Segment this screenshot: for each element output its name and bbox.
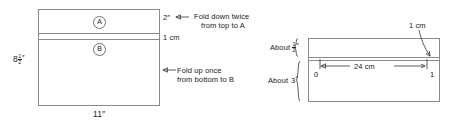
fold-line-bottom: [38, 39, 160, 40]
tick-label-zero: 0: [314, 70, 318, 79]
region-a-label: A: [97, 18, 102, 25]
tick-label-one: 1: [430, 70, 434, 79]
bottom-brace-unit: ″: [295, 75, 298, 82]
region-b-badge: B: [93, 43, 106, 56]
sheet-height-unit: ″: [22, 54, 25, 61]
fold-line-top: [38, 33, 160, 34]
annotation-fold-up-line1: Fold up once: [177, 66, 234, 75]
top-brace-prefix: About: [270, 43, 290, 52]
middle-strip-measure-label: 1 cm: [163, 33, 180, 42]
callout-1cm-label: 1 cm: [409, 21, 426, 30]
sheet-width-label: 11″: [93, 110, 105, 119]
annotation-fold-down-line2: from top to A: [194, 21, 249, 30]
annotation-fold-down: Fold down twice from top to A: [194, 12, 249, 30]
top-strip-measure-label: 2″: [163, 13, 170, 22]
top-brace-label: About12″: [270, 41, 299, 53]
sheet-height-label: 812″: [13, 53, 25, 65]
diagram-canvas: A B 812″ 11″ 2″ 1 cm Fold down twice fro…: [0, 0, 459, 126]
scale-measure-label: 24 cm: [352, 62, 377, 71]
region-b-label: B: [97, 45, 102, 52]
annotation-fold-up: Fold up once from bottom to B: [177, 66, 234, 84]
strip-divider-upper: [308, 57, 440, 58]
strip-divider-lower: [308, 60, 440, 61]
bottom-brace-label: About3″: [268, 74, 298, 85]
annotation-fold-up-line2: from bottom to B: [177, 75, 234, 84]
top-brace-unit: ″: [296, 42, 299, 49]
region-a-badge: A: [93, 16, 106, 29]
bottom-brace-prefix: About: [268, 76, 288, 85]
annotation-fold-down-line1: Fold down twice: [194, 12, 249, 21]
